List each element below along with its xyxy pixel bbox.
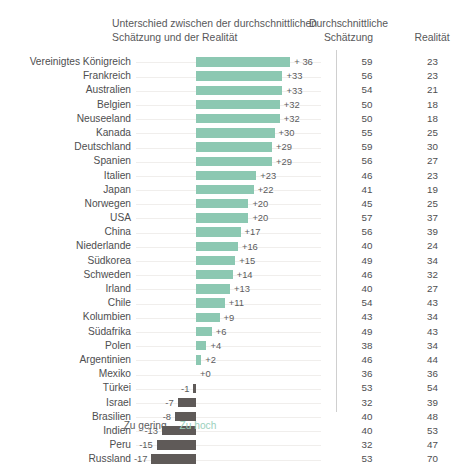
row-estimate-value: 59 (337, 141, 397, 153)
row-reality-value: 27 (400, 155, 465, 167)
row-value-label: +32 (284, 113, 300, 125)
chart-row: Deutschland+295930 (0, 140, 473, 154)
row-value-label: +22 (258, 184, 274, 196)
row-reality-value: 25 (400, 127, 465, 139)
row-value-label: +29 (276, 141, 292, 153)
bar-positive (196, 242, 238, 251)
row-reality-value: 18 (400, 99, 465, 111)
chart-rows: Vereinigtes Königreich+ 365923Frankreich… (0, 55, 473, 466)
row-value-label: +23 (260, 170, 276, 182)
chart-row: Spanien+295627 (0, 154, 473, 168)
chart-row: Kanada+305525 (0, 126, 473, 140)
bar-positive (196, 313, 220, 322)
row-plot-area: +14 (0, 268, 340, 282)
row-plot-area: +0 (0, 367, 340, 381)
row-value-label: +33 (286, 85, 302, 97)
chart-row: Südafrika+64943 (0, 325, 473, 339)
row-reality-value: 23 (400, 170, 465, 182)
row-plot-area: +16 (0, 239, 340, 253)
chart-row: Japan+224119 (0, 183, 473, 197)
row-reality-value: 34 (400, 311, 465, 323)
row-value-label: +14 (237, 269, 253, 281)
row-plot-area: + 36 (0, 55, 340, 69)
chart-row: Polen+43834 (0, 339, 473, 353)
row-value-label: +9 (224, 312, 235, 324)
row-plot-area: -17 (0, 452, 340, 466)
row-estimate-value: 53 (337, 382, 397, 394)
row-reality-value: 34 (400, 340, 465, 352)
bar-positive (196, 114, 280, 123)
bar-positive (196, 256, 235, 265)
row-estimate-value: 40 (337, 411, 397, 423)
row-estimate-value: 55 (337, 127, 397, 139)
row-plot-area: +30 (0, 126, 340, 140)
chart-header: Unterschied zwischen der durchschnittlic… (0, 0, 473, 50)
row-reality-value: 25 (400, 198, 465, 210)
row-value-label: +6 (216, 326, 227, 338)
row-value-label: +11 (229, 297, 244, 309)
row-estimate-value: 59 (337, 56, 397, 68)
row-value-label: +30 (279, 127, 295, 139)
row-estimate-value: 50 (337, 113, 397, 125)
row-reality-value: 43 (400, 297, 465, 309)
row-estimate-value: 56 (337, 70, 397, 82)
row-value-label: + 36 (294, 56, 313, 68)
chart-row: Türkei-15354 (0, 381, 473, 395)
row-estimate-value: 49 (337, 255, 397, 267)
column-header-reality: Realität (398, 31, 466, 45)
row-value-label: -15 (139, 439, 153, 451)
row-estimate-value: 49 (337, 326, 397, 338)
chart-row: Norwegen+204525 (0, 197, 473, 211)
row-reality-value: 27 (400, 283, 465, 295)
bar-negative (178, 398, 196, 407)
chart-row: Schweden+144632 (0, 268, 473, 282)
row-plot-area: +33 (0, 83, 340, 97)
row-reality-value: 37 (400, 212, 465, 224)
row-estimate-value: 54 (337, 297, 397, 309)
chart-row: Australien+335421 (0, 83, 473, 97)
row-estimate-value: 40 (337, 425, 397, 437)
row-estimate-value: 45 (337, 198, 397, 210)
row-plot-area: +17 (0, 225, 340, 239)
row-plot-area: +22 (0, 183, 340, 197)
chart-row: China+175639 (0, 225, 473, 239)
chart-row: Israel-73239 (0, 396, 473, 410)
row-value-label: +29 (276, 156, 292, 168)
row-plot-area: +32 (0, 98, 340, 112)
row-plot-area: +15 (0, 254, 340, 268)
bar-positive (196, 270, 233, 279)
bar-positive (196, 142, 272, 151)
bar-negative (193, 384, 196, 393)
row-reality-value: 36 (400, 368, 465, 380)
row-value-label: +2 (205, 354, 216, 366)
row-plot-area: -7 (0, 396, 340, 410)
row-estimate-value: 41 (337, 184, 397, 196)
chart-row: Frankreich+335623 (0, 69, 473, 83)
bar-positive (196, 227, 241, 236)
row-estimate-value: 38 (337, 340, 397, 352)
chart-row: Chile+115443 (0, 296, 473, 310)
row-reality-value: 70 (400, 453, 465, 465)
row-reality-value: 39 (400, 226, 465, 238)
row-value-label: +17 (245, 226, 261, 238)
row-reality-value: 54 (400, 382, 465, 394)
row-value-label: +16 (242, 241, 258, 253)
row-estimate-value: 57 (337, 212, 397, 224)
row-estimate-value: 32 (337, 439, 397, 451)
row-estimate-value: 54 (337, 84, 397, 96)
chart-row: Peru-153247 (0, 438, 473, 452)
legend-item-too-low: Zu gering (124, 420, 167, 431)
row-value-label: +20 (252, 198, 268, 210)
bar-negative (157, 440, 196, 449)
row-plot-area: +2 (0, 353, 340, 367)
row-reality-value: 24 (400, 240, 465, 252)
row-value-label: -1 (181, 383, 189, 395)
row-value-label: -17 (134, 453, 148, 465)
row-plot-area: +20 (0, 211, 340, 225)
row-plot-area: +13 (0, 282, 340, 296)
row-reality-value: 53 (400, 425, 465, 437)
bar-positive (196, 327, 212, 336)
row-estimate-value: 36 (337, 368, 397, 380)
row-value-label: +13 (234, 283, 250, 295)
bar-positive (196, 199, 248, 208)
